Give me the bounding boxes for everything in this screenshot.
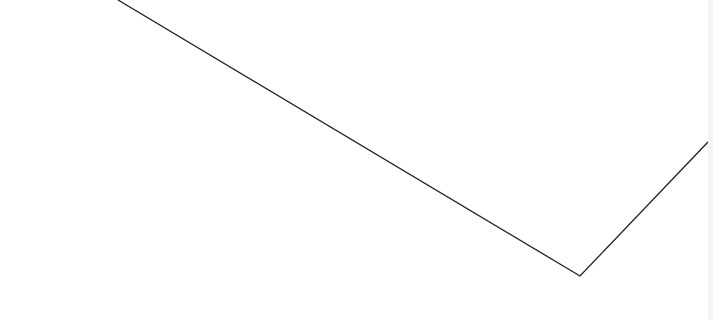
drawing-canvas xyxy=(0,0,713,320)
polyline-stroke xyxy=(118,0,708,276)
line-drawing xyxy=(0,0,713,320)
right-edge-strip xyxy=(708,0,713,320)
